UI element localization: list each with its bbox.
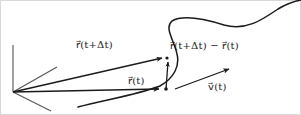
point-position-at-t-plus-dt xyxy=(165,56,168,59)
label-position-vector-t: r⃗(t) xyxy=(128,76,145,86)
figure-border xyxy=(1,1,301,115)
label-position-vector-t-plus-dt: r⃗(t+Δt) xyxy=(76,40,113,50)
point-position-at-t xyxy=(164,87,168,91)
axis-upper-diagonal xyxy=(13,67,57,92)
vector-r-t xyxy=(13,89,159,92)
trajectory-curve xyxy=(78,0,301,107)
diagram-canvas xyxy=(0,0,301,115)
vector-diagram-figure: r⃗(t+Δt) r⃗(t+Δt) − r⃗(t) r⃗(t) v⃗(t) xyxy=(0,0,301,115)
axis-lower-diagonal xyxy=(13,92,51,111)
label-velocity-vector: v⃗(t) xyxy=(208,82,227,92)
vector-difference xyxy=(166,62,168,89)
label-difference-vector: r⃗(t+Δt) − r⃗(t) xyxy=(170,41,239,51)
